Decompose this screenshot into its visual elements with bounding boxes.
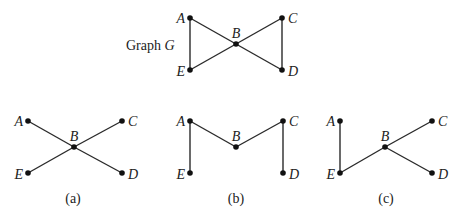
- vertex-c: [279, 15, 285, 21]
- edge-b-c: [236, 121, 283, 147]
- vertex-label-a: A: [325, 114, 335, 129]
- edge-b-c: [385, 121, 432, 147]
- spanning-tree-b: ABCDE: [175, 114, 299, 182]
- vertex-label-e: E: [175, 64, 185, 79]
- vertex-label-c: C: [128, 114, 138, 129]
- vertex-a: [187, 15, 193, 21]
- caption-b: (b): [228, 191, 245, 207]
- vertex-label-a: A: [175, 114, 185, 129]
- vertex-label-b: B: [232, 26, 241, 41]
- spanning-tree-a: ABCDE: [13, 114, 138, 182]
- vertex-e: [25, 170, 31, 176]
- diagram-canvas: Graph G ABCDE ABCDE ABCDE ABCDE (a) (b) …: [0, 0, 462, 217]
- edge-b-d: [74, 147, 122, 173]
- vertex-a: [25, 118, 31, 124]
- edge-b-d: [236, 44, 282, 70]
- vertex-label-e: E: [175, 167, 185, 182]
- vertex-c: [429, 118, 435, 124]
- vertex-e: [187, 67, 193, 73]
- vertex-label-e: E: [13, 167, 23, 182]
- vertex-e: [337, 170, 343, 176]
- vertex-label-b: B: [381, 129, 390, 144]
- vertex-d: [429, 170, 435, 176]
- edge-b-d: [385, 147, 432, 173]
- vertex-label-d: D: [127, 167, 138, 182]
- edge-a-b: [190, 121, 236, 147]
- vertex-e: [187, 170, 193, 176]
- vertex-label-d: D: [288, 167, 299, 182]
- vertex-label-b: B: [70, 129, 79, 144]
- vertex-b: [233, 41, 239, 47]
- vertex-b: [233, 144, 239, 150]
- vertex-label-c: C: [438, 114, 448, 129]
- vertex-c: [119, 118, 125, 124]
- vertex-d: [279, 67, 285, 73]
- vertex-d: [119, 170, 125, 176]
- caption-a: (a): [65, 191, 81, 207]
- vertex-label-e: E: [325, 167, 335, 182]
- vertex-a: [337, 118, 343, 124]
- edge-e-b: [190, 44, 236, 70]
- vertex-label-d: D: [437, 167, 448, 182]
- vertex-d: [280, 170, 286, 176]
- graph-g: ABCDE: [175, 11, 298, 79]
- edge-e-b: [28, 147, 74, 173]
- edge-e-b: [340, 147, 385, 173]
- vertex-b: [382, 144, 388, 150]
- vertex-label-a: A: [13, 114, 23, 129]
- edge-b-c: [236, 18, 282, 44]
- vertex-label-d: D: [287, 64, 298, 79]
- edge-a-b: [28, 121, 74, 147]
- edge-a-b: [190, 18, 236, 44]
- vertex-label-b: B: [232, 129, 241, 144]
- spanning-tree-c: ABCDE: [325, 114, 448, 182]
- vertex-label-c: C: [289, 114, 299, 129]
- vertex-b: [71, 144, 77, 150]
- vertex-a: [187, 118, 193, 124]
- vertex-label-a: A: [175, 11, 185, 26]
- graph-g-title: Graph G: [126, 38, 175, 53]
- vertex-c: [280, 118, 286, 124]
- caption-c: (c): [378, 191, 394, 207]
- vertex-label-c: C: [288, 11, 298, 26]
- edge-b-c: [74, 121, 122, 147]
